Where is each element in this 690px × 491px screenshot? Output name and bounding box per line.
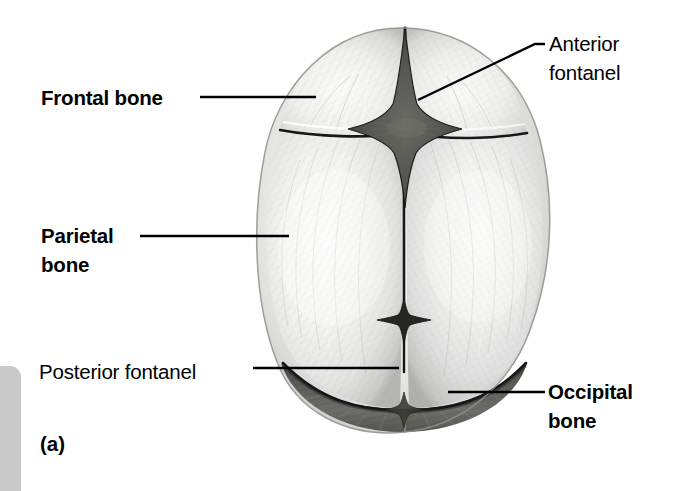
fetal-skull-figure: Frontal bone Parietal bone Posterior fon… — [0, 0, 690, 491]
label-anterior-fontanel: Anterior fontanel — [549, 30, 620, 87]
page-edge-tab — [0, 366, 21, 491]
label-posterior-fontanel: Posterior fontanel — [39, 358, 196, 387]
label-occipital-bone: Occipital bone — [548, 378, 633, 435]
panel-letter: (a) — [40, 432, 65, 456]
label-parietal-bone: Parietal bone — [41, 222, 113, 279]
label-frontal-bone: Frontal bone — [41, 84, 163, 113]
